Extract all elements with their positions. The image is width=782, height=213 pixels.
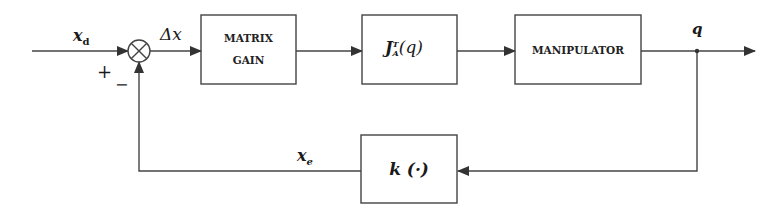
- input-signal-label: xd: [73, 26, 90, 45]
- jacobian-transpose-block: JTA(q): [385, 37, 423, 58]
- diagram-lines: [0, 0, 782, 213]
- plus-sign: +: [97, 61, 112, 82]
- branch-point: [695, 49, 699, 53]
- feedback-signal-label: xe: [297, 146, 313, 165]
- manipulator-block: MANIPULATOR: [515, 39, 641, 61]
- matrix-gain-block: MATRIX GAIN: [201, 27, 296, 71]
- output-signal-label: q: [692, 20, 703, 38]
- error-signal-label: Δx: [160, 24, 182, 44]
- minus-sign: −: [115, 75, 128, 94]
- direct-kinematics-block: k (·): [361, 159, 457, 179]
